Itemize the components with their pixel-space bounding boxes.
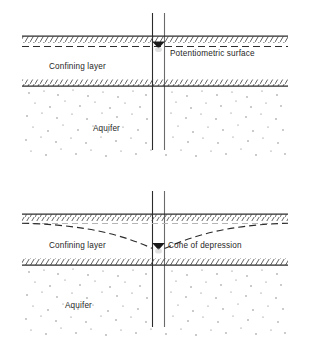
label-aquifer-top: Aquifer xyxy=(93,124,120,133)
label-cone-of-depression: Cone of depression xyxy=(168,241,242,250)
label-confining-layer-top: Confining layer xyxy=(49,62,106,71)
label-potentiometric-surface: Potentiometric surface xyxy=(170,49,255,58)
label-aquifer-bottom: Aquifer xyxy=(65,301,92,310)
confining-layer-bottom-boundary-bottom-panel xyxy=(22,259,288,266)
label-confining-layer-bottom: Confining layer xyxy=(49,241,106,250)
diagram-canvas: Confining layer Aquifer Potentiometric s… xyxy=(0,0,310,353)
confining-layer-bottom-boundary-top-panel xyxy=(22,80,288,87)
confining-layer-top-boundary-bottom-panel xyxy=(22,214,288,221)
hydrogeology-figure: Confining layer Aquifer Potentiometric s… xyxy=(0,0,310,353)
canvas-background xyxy=(0,0,310,353)
